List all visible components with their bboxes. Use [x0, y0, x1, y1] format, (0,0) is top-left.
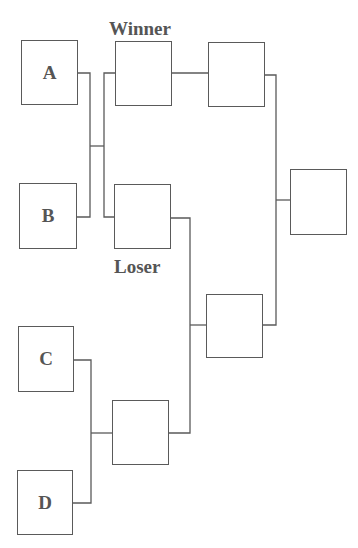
connector-cd — [73, 360, 91, 503]
entrant-box-c: C — [18, 326, 74, 392]
entrant-box-b: B — [19, 183, 77, 249]
entrant-label-a: A — [43, 62, 57, 84]
champion-slot — [290, 169, 347, 235]
cd-winner-slot — [112, 400, 169, 465]
entrant-box-a: A — [21, 40, 78, 105]
connector-wfinal-to-champion — [263, 75, 276, 325]
entrant-label-c: C — [39, 348, 53, 370]
winner-slot — [115, 41, 172, 106]
winners-final-slot — [208, 42, 265, 107]
entrant-box-d: D — [17, 470, 73, 535]
entrant-label-b: B — [42, 205, 55, 227]
loser-caption: Loser — [114, 257, 160, 276]
connector-a — [77, 73, 90, 217]
winner-caption: Winner — [109, 19, 171, 38]
entrant-label-d: D — [38, 492, 52, 514]
bracket-diagram: A B C D Winner Loser — [0, 0, 358, 548]
losers-final-slot — [206, 294, 263, 358]
connector-loser — [169, 218, 190, 433]
loser-slot — [114, 184, 171, 249]
